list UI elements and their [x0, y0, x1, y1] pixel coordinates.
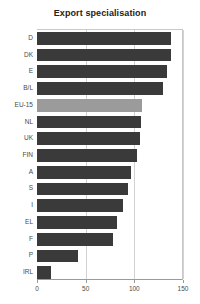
- bar-fill: [37, 166, 131, 179]
- bar-fill: [37, 116, 141, 129]
- x-tick-mark-150: [183, 280, 184, 283]
- bar-F: [37, 233, 183, 246]
- bar-S: [37, 183, 183, 196]
- y-tick-label-EU-15: EU-15: [0, 101, 33, 108]
- y-tick-label-S: S: [0, 184, 33, 191]
- x-tick-label-0: 0: [27, 285, 47, 293]
- y-tick-label-UK: UK: [0, 134, 33, 141]
- y-tick-label-D: D: [0, 34, 33, 41]
- bar-E: [37, 65, 183, 78]
- y-tick-label-A: A: [0, 168, 33, 175]
- bar-DK: [37, 49, 183, 62]
- bar-EU-15: [37, 99, 183, 112]
- x-tick-mark-50: [86, 280, 87, 283]
- y-tick-label-B-L: B/L: [0, 84, 33, 91]
- chart-title: Export specialisation: [0, 8, 200, 18]
- y-tick-label-FIN: FIN: [0, 151, 33, 158]
- x-tick-label-150: 150: [173, 285, 193, 293]
- bar-FIN: [37, 149, 183, 162]
- bar-fill: [37, 132, 140, 145]
- x-tick-mark-100: [134, 280, 135, 283]
- gridline-150: [183, 30, 184, 279]
- bar-EL: [37, 216, 183, 229]
- bar-UK: [37, 132, 183, 145]
- y-tick-label-F: F: [0, 235, 33, 242]
- x-tick-label-50: 50: [76, 285, 96, 293]
- chart-figure: Export specialisation DDKEB/LEU-15NLUKFI…: [0, 0, 200, 304]
- bar-fill: [37, 149, 137, 162]
- bar-P: [37, 250, 183, 263]
- x-tick-mark-0: [37, 280, 38, 283]
- bar-fill: [37, 250, 78, 263]
- bar-fill: [37, 266, 51, 279]
- bar-fill: [37, 199, 123, 212]
- plot-area: [37, 29, 183, 280]
- y-tick-label-I: I: [0, 201, 33, 208]
- y-tick-label-P: P: [0, 251, 33, 258]
- bar-I: [37, 199, 183, 212]
- y-tick-label-IRL: IRL: [0, 268, 33, 275]
- y-tick-label-E: E: [0, 67, 33, 74]
- bar-fill: [37, 82, 163, 95]
- bar-IRL: [37, 266, 183, 279]
- bar-fill: [37, 233, 113, 246]
- bar-fill: [37, 99, 142, 112]
- bar-D: [37, 32, 183, 45]
- bar-fill: [37, 49, 171, 62]
- bar-fill: [37, 183, 128, 196]
- y-tick-label-NL: NL: [0, 118, 33, 125]
- bar-fill: [37, 216, 117, 229]
- bar-NL: [37, 116, 183, 129]
- y-tick-label-EL: EL: [0, 218, 33, 225]
- bar-B-L: [37, 82, 183, 95]
- bar-A: [37, 166, 183, 179]
- bar-fill: [37, 65, 167, 78]
- bar-fill: [37, 32, 171, 45]
- y-tick-label-DK: DK: [0, 51, 33, 58]
- x-tick-label-100: 100: [124, 285, 144, 293]
- bar-series: [37, 30, 182, 279]
